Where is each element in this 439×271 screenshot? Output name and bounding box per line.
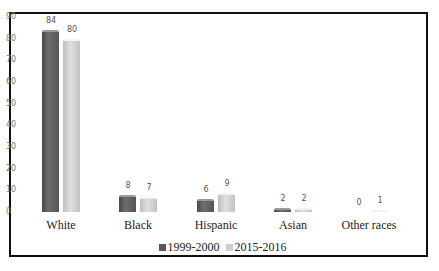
y-tick-label: 40 (6, 120, 26, 129)
data-label: 8 (118, 181, 138, 190)
category-label: Black (93, 218, 183, 233)
y-tick-label: 90 (6, 12, 26, 21)
legend-label: 1999-2000 (168, 240, 220, 254)
bar (218, 193, 235, 213)
data-label: 80 (62, 25, 82, 34)
bar (63, 39, 80, 212)
y-tick-label: 10 (6, 185, 26, 194)
bar (274, 208, 291, 212)
bar (197, 199, 214, 212)
data-label: 1 (370, 196, 390, 205)
bar (140, 197, 157, 212)
data-label: 6 (196, 185, 216, 194)
data-label: 0 (349, 198, 369, 207)
data-label: 2 (294, 194, 314, 203)
y-tick-label: 70 (6, 55, 26, 64)
y-tick-label: 20 (6, 164, 26, 173)
y-tick-label: 60 (6, 77, 26, 86)
data-label: 7 (139, 183, 159, 192)
bar (295, 208, 312, 212)
y-tick-label: 80 (6, 34, 26, 43)
legend: 1999-20002015-2016 (0, 240, 439, 255)
data-label: 84 (41, 16, 61, 25)
data-label: 9 (217, 179, 237, 188)
legend-swatch (159, 244, 166, 251)
bar (42, 30, 59, 212)
legend-label: 2015-2016 (235, 240, 287, 254)
category-label: Other races (324, 218, 414, 233)
y-tick-label: 0 (6, 207, 26, 216)
y-tick-label: 50 (6, 99, 26, 108)
y-tick-label: 30 (6, 142, 26, 151)
legend-swatch (226, 244, 233, 251)
bar (119, 195, 136, 212)
bar (371, 210, 388, 212)
data-label: 2 (273, 194, 293, 203)
